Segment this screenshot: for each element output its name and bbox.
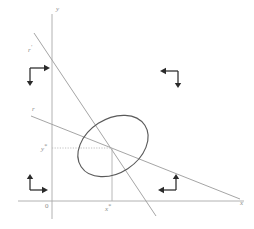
shallow-constraint-line bbox=[31, 116, 240, 199]
shallow-line-label-text: r bbox=[32, 105, 35, 113]
x-axis-label: x bbox=[240, 200, 243, 207]
x-star-label-prime: * bbox=[108, 203, 111, 209]
steep-constraint-line-label: r' bbox=[28, 44, 32, 54]
gradient-arrow-lower-left bbox=[27, 174, 48, 193]
origin-label: 0 bbox=[45, 203, 49, 210]
ellipse-level-curve bbox=[66, 103, 159, 190]
y-axis-label: y bbox=[56, 6, 59, 13]
steep-line-label-prime: ' bbox=[31, 44, 32, 50]
gradient-arrow-upper-right bbox=[160, 68, 181, 88]
x-star-label: x* bbox=[105, 203, 111, 213]
y-star-label: y* bbox=[41, 143, 47, 153]
figure-canvas bbox=[0, 0, 254, 229]
optimization-figure: y x 0 r' r y* x* bbox=[0, 0, 254, 229]
gradient-arrow-upper-left bbox=[27, 65, 50, 86]
y-star-label-prime: * bbox=[44, 143, 47, 149]
gradient-arrow-lower-right bbox=[158, 174, 179, 193]
shallow-constraint-line-label: r bbox=[32, 103, 35, 113]
